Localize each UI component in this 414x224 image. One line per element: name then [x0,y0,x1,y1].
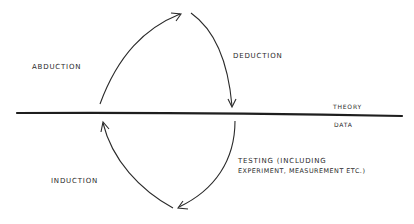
data-label: DATA [334,120,353,130]
abduction-arrow [100,14,180,104]
diagram-canvas [0,0,414,224]
deduction-arrow [191,13,232,106]
abduction-label: ABDUCTION [32,62,81,72]
deduction-label: DEDUCTION [233,51,283,61]
theory-data-divider-line [17,113,402,116]
testing-label-line2: EXPERIMENT, MEASUREMENT ETC.) [238,166,365,176]
theory-label: THEORY [333,102,362,112]
reasoning-cycle-diagram: ABDUCTION DEDUCTION THEORY DATA INDUCTIO… [0,0,414,224]
testing-label-line1: TESTING (INCLUDING [238,156,326,166]
induction-label: INDUCTION [51,176,98,186]
induction-arrow [103,123,173,208]
testing-arrow [179,121,235,207]
